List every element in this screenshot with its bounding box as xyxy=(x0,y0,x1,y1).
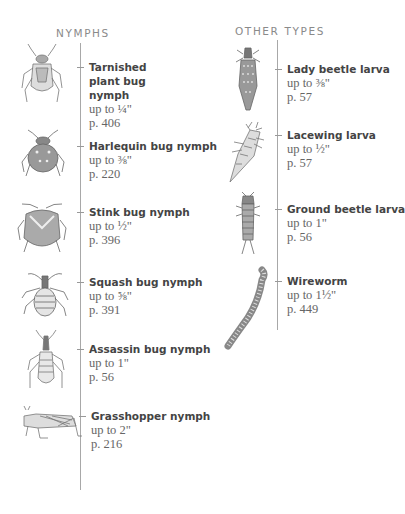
nymph-entry-grasshopper: Grasshopper nymph up to 2" p. 216 xyxy=(91,409,210,451)
nymph-entry-harlequin-bug: Harlequin bug nymph up to ⅜" p. 220 xyxy=(89,139,217,181)
entry-size: up to ⅜" xyxy=(287,76,390,90)
pointer-tick xyxy=(275,281,282,282)
entry-page: p. 406 xyxy=(89,116,179,130)
entry-page: p. 56 xyxy=(287,230,405,244)
other-types-divider-line xyxy=(277,40,278,330)
nymph-entry-squash-bug: Squash bug nymph up to ⅝" p. 391 xyxy=(89,275,202,317)
pointer-tick xyxy=(275,135,282,136)
pointer-tick xyxy=(77,349,84,350)
entry-page: p. 396 xyxy=(89,233,190,247)
entry-size: up to 1½" xyxy=(287,288,348,302)
squash-bug-nymph-illustration xyxy=(20,266,70,322)
entry-page: p. 216 xyxy=(91,437,210,451)
entry-name: Grasshopper nymph xyxy=(91,409,210,423)
other-entry-lacewing-larva: Lacewing larva up to ½" p. 57 xyxy=(287,128,376,170)
lacewing-larva-illustration xyxy=(226,120,266,184)
entry-size: up to ½" xyxy=(287,142,376,156)
ground-beetle-larva-illustration xyxy=(234,190,262,258)
entry-size: up to ¼" xyxy=(89,102,179,116)
entry-size: up to 1" xyxy=(89,356,210,370)
lady-beetle-larva-illustration xyxy=(233,46,263,112)
assassin-bug-nymph-illustration xyxy=(26,330,66,392)
entry-name: Tarnished plant bug nymph xyxy=(89,60,179,102)
entry-size: up to 1" xyxy=(287,216,405,230)
nymphs-heading: NYMPHS xyxy=(56,27,110,39)
entry-name: Lacewing larva xyxy=(287,128,376,142)
entry-page: p. 391 xyxy=(89,303,202,317)
entry-size: up to ⅜" xyxy=(89,153,217,167)
other-types-heading: OTHER TYPES xyxy=(235,25,325,37)
entry-name: Stink bug nymph xyxy=(89,205,190,219)
tarnished-plant-bug-nymph-illustration xyxy=(18,42,66,106)
entry-size: up to ⅝" xyxy=(89,289,202,303)
other-entry-lady-beetle-larva: Lady beetle larva up to ⅜" p. 57 xyxy=(287,62,390,104)
wireworm-illustration xyxy=(222,266,270,350)
pointer-tick xyxy=(77,212,84,213)
entry-page: p. 220 xyxy=(89,167,217,181)
entry-size: up to ½" xyxy=(89,219,190,233)
nymph-entry-assassin-bug: Assassin bug nymph up to 1" p. 56 xyxy=(89,342,210,384)
pointer-tick xyxy=(79,416,86,417)
nymph-entry-tarnished-plant-bug: Tarnished plant bug nymph up to ¼" p. 40… xyxy=(89,60,179,130)
entry-page: p. 449 xyxy=(287,302,348,316)
entry-name: Squash bug nymph xyxy=(89,275,202,289)
pointer-tick xyxy=(275,69,282,70)
pointer-tick xyxy=(275,209,282,210)
pointer-tick xyxy=(77,282,84,283)
other-entry-ground-beetle-larva: Ground beetle larva up to 1" p. 56 xyxy=(287,202,405,244)
entry-name: Lady beetle larva xyxy=(287,62,390,76)
other-entry-wireworm: Wireworm up to 1½" p. 449 xyxy=(287,274,348,316)
entry-name: Assassin bug nymph xyxy=(89,342,210,356)
entry-size: up to 2" xyxy=(91,423,210,437)
entry-page: p. 56 xyxy=(89,370,210,384)
entry-page: p. 57 xyxy=(287,90,390,104)
harlequin-bug-nymph-illustration xyxy=(20,128,66,184)
entry-name: Wireworm xyxy=(287,274,348,288)
entry-name: Ground beetle larva xyxy=(287,202,405,216)
stink-bug-nymph-illustration xyxy=(16,200,68,256)
pointer-tick xyxy=(77,146,84,147)
pointer-tick xyxy=(77,67,84,68)
nymph-entry-stink-bug: Stink bug nymph up to ½" p. 396 xyxy=(89,205,190,247)
entry-page: p. 57 xyxy=(287,156,376,170)
entry-name: Harlequin bug nymph xyxy=(89,139,217,153)
grasshopper-nymph-illustration xyxy=(18,406,82,442)
